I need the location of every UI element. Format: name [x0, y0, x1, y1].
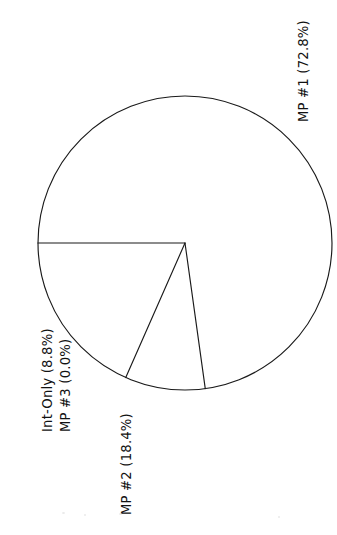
pie-slice-label-mp2: MP #2 (18.4%) — [120, 413, 133, 515]
pie-chart-canvas — [0, 0, 337, 535]
scan-artifact — [62, 512, 65, 514]
scan-artifact — [84, 514, 86, 516]
pie-chart: MP #1 (72.8%) Int-Only (8.8%) MP #3 (0.0… — [0, 0, 337, 535]
pie-slice-label-int-only: Int-Only (8.8%) — [41, 328, 54, 432]
pie-slice-label-mp1: MP #1 (72.8%) — [297, 20, 310, 122]
scan-artifact — [278, 516, 280, 518]
pie-spoke-intonly-mp2 — [185, 243, 205, 389]
pie-spoke-mp2-mp1 — [126, 243, 185, 378]
pie-slice-label-mp3: MP #3 (0.0%) — [59, 339, 72, 432]
scan-artifact — [119, 513, 122, 515]
